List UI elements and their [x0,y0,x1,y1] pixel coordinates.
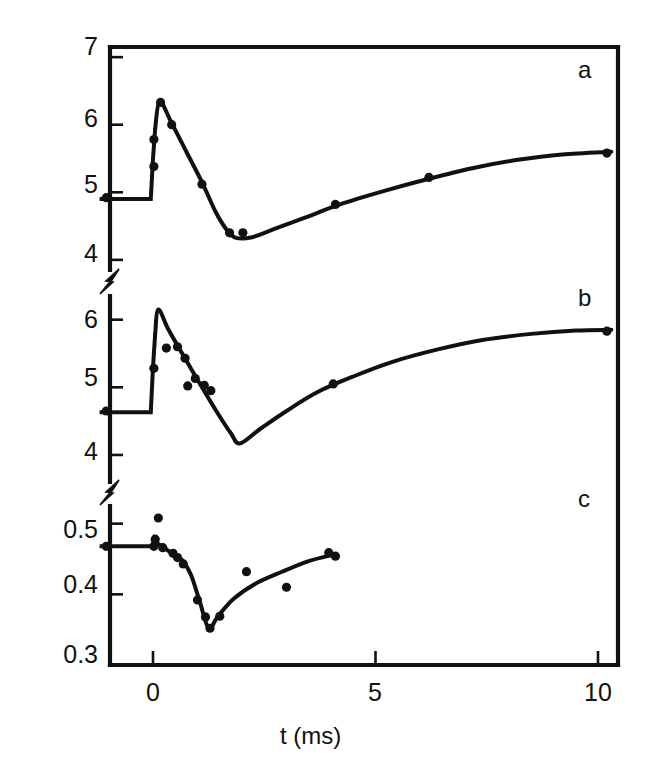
data-point-b-9 [329,379,338,388]
curve-a [155,101,611,239]
ytick-label-a-6: 6 [52,106,98,131]
data-point-c-15 [331,552,340,561]
data-point-c-3 [154,513,163,522]
data-point-a-8 [331,200,340,209]
data-point-b-5 [183,381,192,390]
data-point-c-8 [193,595,202,604]
ytick-label-a-7: 7 [52,34,98,59]
data-point-a-6 [225,228,234,237]
axis-break-1-icon [100,269,119,294]
xtick-label-0: 0 [128,680,178,705]
curve-c [157,543,333,628]
data-point-a-7 [238,228,247,237]
data-point-b-8 [206,386,215,395]
data-point-b-1 [149,364,158,373]
ytick-label-b-5: 5 [52,365,98,390]
panel-label-a: a [578,58,591,82]
data-point-b-4 [180,354,189,363]
ytick-label-b-4: 4 [52,439,98,464]
data-point-c-13 [282,583,291,592]
panel-label-b: b [578,286,591,310]
data-point-c-4 [158,543,167,552]
ytick-label-a-5: 5 [52,172,98,197]
data-point-a-9 [424,173,433,182]
data-point-a-1 [149,135,158,144]
data-point-a-10 [602,148,611,157]
data-point-a-2 [149,162,158,171]
data-point-c-7 [179,559,188,568]
x-axis-title: t (ms) [280,724,341,748]
data-point-c-2 [151,535,160,544]
data-point-a-5 [197,180,206,189]
data-point-a-3 [156,98,165,107]
panel-label-c: c [578,487,590,511]
data-point-b-6 [191,374,200,383]
ytick-label-c-05: 0.5 [28,517,98,542]
ytick-label-c-03: 0.3 [28,642,98,667]
data-point-a-4 [167,120,176,129]
data-point-b-3 [173,342,182,351]
data-point-c-11 [215,612,224,621]
xtick-label-10: 10 [573,680,623,705]
ytick-label-a-4: 4 [52,241,98,266]
data-point-b-2 [162,343,171,352]
data-point-c-10 [205,624,214,633]
ytick-label-b-6: 6 [52,307,98,332]
data-point-b-0 [102,406,111,415]
xtick-label-5: 5 [350,680,400,705]
data-point-c-12 [242,567,251,576]
data-point-c-9 [201,612,210,621]
data-point-c-0 [102,542,111,551]
data-point-a-0 [102,193,111,202]
curve-b [155,310,611,444]
ytick-label-c-04: 0.4 [28,572,98,597]
data-point-b-10 [602,327,611,336]
figure-container: 7 6 5 4 6 5 4 0.5 0.4 0.3 0 5 10 a b c H… [0,0,645,777]
